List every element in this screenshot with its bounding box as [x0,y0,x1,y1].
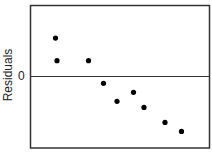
y-axis-label: Residuals [1,45,15,105]
data-point [162,120,167,125]
data-point [54,58,59,63]
data-point [101,81,106,86]
data-point [131,90,136,95]
y-tick-zero: 0 [18,69,25,83]
data-point [179,129,184,134]
data-point [86,58,91,63]
data-point [114,99,119,104]
residual-plot [0,0,212,156]
data-point [141,105,146,110]
data-point [53,36,58,41]
